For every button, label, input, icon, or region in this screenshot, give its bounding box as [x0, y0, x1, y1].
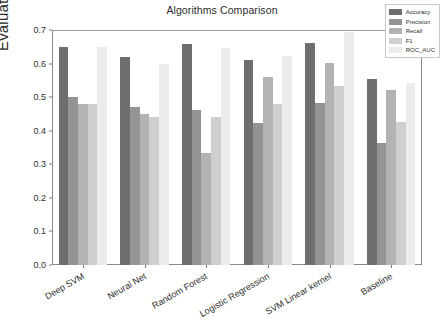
x-tick-label: Random Forest	[150, 271, 209, 311]
y-tick-label: 0.0	[33, 260, 46, 270]
x-tick-mark	[206, 265, 207, 268]
x-tick-label: Neural Net	[105, 271, 147, 301]
legend-swatch	[389, 47, 402, 53]
bar[interactable]	[59, 47, 69, 265]
bar[interactable]	[377, 143, 387, 265]
legend-swatch	[389, 9, 402, 15]
legend-swatch	[389, 38, 402, 44]
bar[interactable]	[97, 47, 107, 265]
bar[interactable]	[282, 56, 292, 265]
bar[interactable]	[325, 63, 335, 265]
x-tick-label: Logistic Regression	[198, 271, 271, 319]
bar-group	[299, 30, 361, 265]
bar[interactable]	[244, 60, 254, 265]
y-tick-label: 0.1	[33, 226, 46, 236]
x-tick-mark	[268, 265, 269, 268]
bar[interactable]	[88, 104, 98, 265]
x-tick-mark	[83, 265, 84, 268]
x-tick-mark	[330, 265, 331, 268]
bar-group	[114, 30, 176, 265]
legend-item[interactable]: ROC_AUC	[389, 46, 435, 54]
legend-swatch	[389, 28, 402, 34]
y-tick-label: 0.6	[33, 59, 46, 69]
bar[interactable]	[68, 97, 78, 265]
legend-label: Precision	[406, 18, 431, 26]
y-tick-label: 0.4	[33, 126, 46, 136]
x-tick-label: Baseline	[359, 271, 394, 297]
legend-item[interactable]: F1	[389, 37, 435, 45]
chart-title: Algorithms Comparison	[0, 4, 444, 16]
bar-group	[52, 30, 114, 265]
x-tick-label: SVM Linear kernel	[263, 271, 332, 317]
bar-group	[360, 30, 422, 265]
bar[interactable]	[367, 79, 377, 265]
legend-label: Recall	[406, 27, 423, 35]
legend-label: Accuracy	[406, 8, 431, 16]
bar[interactable]	[149, 117, 159, 265]
bar[interactable]	[396, 122, 406, 265]
legend-item[interactable]: Recall	[389, 27, 435, 35]
bar-group	[175, 30, 237, 265]
bar[interactable]	[305, 43, 315, 265]
bar[interactable]	[201, 153, 211, 265]
bar[interactable]	[334, 86, 344, 265]
legend-label: ROC_AUC	[406, 46, 435, 54]
x-tick-mark	[145, 265, 146, 268]
y-tick-label: 0.2	[33, 193, 46, 203]
bar[interactable]	[211, 117, 221, 265]
y-tick-label: 0.5	[33, 92, 46, 102]
bar[interactable]	[263, 77, 273, 265]
bar-group	[237, 30, 299, 265]
bar[interactable]	[406, 83, 416, 265]
bar[interactable]	[221, 48, 231, 265]
bar[interactable]	[344, 32, 354, 265]
bar[interactable]	[386, 90, 396, 265]
bar[interactable]	[140, 114, 150, 265]
bar[interactable]	[130, 107, 140, 265]
x-axis-ticks: Deep SVMNeural NetRandom ForestLogistic …	[52, 265, 422, 332]
figure-canvas: Algorithms Comparison Evaluation Metrics…	[0, 0, 444, 332]
bar[interactable]	[120, 57, 130, 265]
legend-label: F1	[406, 37, 413, 45]
legend-item[interactable]: Precision	[389, 18, 435, 26]
bar[interactable]	[273, 104, 283, 265]
chart-legend: AccuracyPrecisionRecallF1ROC_AUC	[385, 4, 440, 58]
bar[interactable]	[192, 110, 202, 265]
bars-layer	[52, 30, 422, 265]
bar[interactable]	[253, 123, 263, 265]
x-tick-mark	[391, 265, 392, 268]
legend-item[interactable]: Accuracy	[389, 8, 435, 16]
bar[interactable]	[315, 103, 325, 265]
x-tick-label: Deep SVM	[43, 271, 86, 301]
bar[interactable]	[182, 44, 192, 265]
y-tick-label: 0.3	[33, 159, 46, 169]
y-axis-ticks: 0.00.10.20.30.40.50.60.7	[0, 30, 52, 265]
bar[interactable]	[159, 64, 169, 265]
bar[interactable]	[78, 104, 88, 265]
y-tick-label: 0.7	[33, 25, 46, 35]
legend-swatch	[389, 19, 402, 25]
